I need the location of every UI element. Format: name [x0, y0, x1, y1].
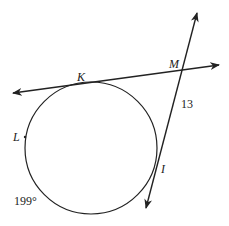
circle-diagram: K M L I 13 199° [0, 0, 229, 226]
label-I: I [160, 162, 166, 176]
label-K: K [76, 70, 86, 84]
label-M: M [168, 57, 180, 71]
circle [25, 82, 157, 214]
tangent-line-KM [13, 65, 219, 93]
point-L-dot [24, 136, 26, 138]
label-L: L [12, 130, 20, 144]
segment-MI-length: 13 [181, 97, 193, 111]
arc-measure-label: 199° [14, 194, 37, 208]
